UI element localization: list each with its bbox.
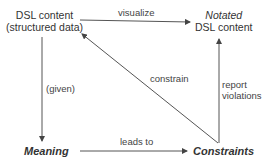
node-dsl-content-line2: (structured data) (6, 21, 83, 33)
node-dsl-content-line1: DSL content (6, 9, 83, 21)
node-notated-line1: Notated (195, 9, 252, 21)
node-dsl-content: DSL content (structured data) (6, 9, 83, 33)
edge-label-violations: violations (222, 90, 262, 101)
edge-label-report: report (222, 79, 262, 90)
edge-visualize (80, 20, 190, 22)
edge-constrain (82, 34, 218, 143)
node-notated-line2: DSL content (195, 21, 252, 33)
node-constraints: Constraints (193, 145, 254, 157)
edge-label-visualize: visualize (118, 7, 154, 18)
node-meaning: Meaning (24, 145, 69, 157)
node-notated-dsl-content: Notated DSL content (195, 9, 252, 33)
edge-label-constrain: constrain (150, 73, 189, 84)
edge-label-leads-to: leads to (120, 136, 153, 147)
edge-label-report-violations: report violations (222, 79, 262, 101)
edge-label-given: (given) (46, 83, 75, 94)
